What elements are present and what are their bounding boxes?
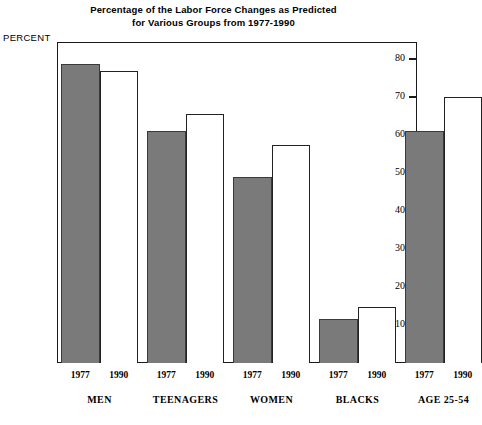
bar-blacks-1990 bbox=[358, 307, 397, 363]
y-axis-tick-label: 50 bbox=[395, 166, 405, 177]
y-axis-tick-label: 70 bbox=[395, 90, 405, 101]
y-axis-tick-mark bbox=[409, 58, 417, 59]
x-axis-year-label: 1977 bbox=[61, 370, 100, 380]
plot-area: 1020304050607080 bbox=[57, 42, 417, 363]
y-axis-unit-label: PERCENT bbox=[3, 32, 51, 43]
chart-title: Percentage of the Labor Force Changes as… bbox=[0, 4, 427, 29]
y-axis-tick-mark bbox=[409, 96, 417, 97]
bar-age-25-54-1977 bbox=[405, 131, 444, 363]
x-axis-group-label-age-25-54: AGE 25-54 bbox=[405, 394, 482, 405]
bar-blacks-1977 bbox=[319, 319, 358, 363]
x-axis-year-label: 1990 bbox=[444, 370, 482, 380]
x-axis-year-label: 1990 bbox=[100, 370, 139, 380]
bar-teenagers-1990 bbox=[186, 114, 225, 363]
x-axis-year-label: 1990 bbox=[272, 370, 311, 380]
x-axis-group-label-men: MEN bbox=[61, 394, 138, 405]
bar-teenagers-1977 bbox=[147, 131, 186, 363]
x-axis-group-label-teenagers: TEENAGERS bbox=[147, 394, 224, 405]
x-axis-group-label-women: WOMEN bbox=[233, 394, 310, 405]
bar-women-1977 bbox=[233, 177, 272, 363]
x-axis-year-label: 1977 bbox=[319, 370, 358, 380]
bar-age-25-54-1990 bbox=[444, 97, 482, 363]
x-axis-year-label: 1977 bbox=[405, 370, 444, 380]
x-axis-year-label: 1977 bbox=[233, 370, 272, 380]
y-axis-tick-label: 30 bbox=[395, 242, 405, 253]
y-axis-tick-label: 40 bbox=[395, 204, 405, 215]
x-axis-year-label: 1977 bbox=[147, 370, 186, 380]
chart-title-line-1: Percentage of the Labor Force Changes as… bbox=[0, 4, 427, 17]
bar-men-1990 bbox=[100, 71, 139, 363]
x-axis-year-label: 1990 bbox=[358, 370, 397, 380]
bar-women-1990 bbox=[272, 145, 311, 363]
y-axis-tick-label: 80 bbox=[395, 52, 405, 63]
y-axis-tick-label: 60 bbox=[395, 128, 405, 139]
bar-men-1977 bbox=[61, 64, 100, 363]
y-axis-tick-label: 20 bbox=[395, 280, 405, 291]
x-axis-year-label: 1990 bbox=[186, 370, 225, 380]
chart-title-line-2: for Various Groups from 1977-1990 bbox=[0, 17, 427, 30]
y-axis-tick-label: 10 bbox=[395, 318, 405, 329]
x-axis-group-label-blacks: BLACKS bbox=[319, 394, 396, 405]
